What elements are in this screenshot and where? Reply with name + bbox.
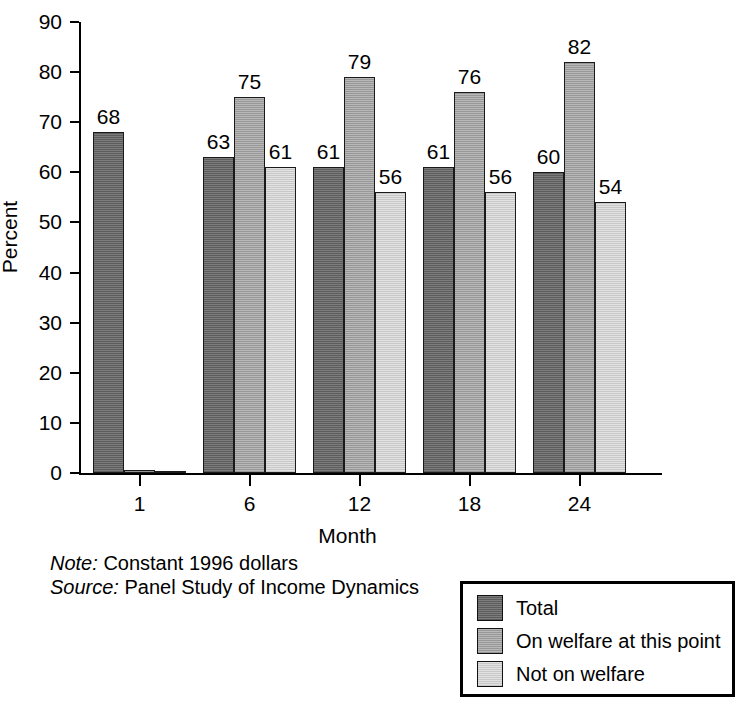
x-tick-label-6: 6 (220, 492, 280, 516)
legend-swatch-0 (477, 595, 503, 621)
x-axis-title-text: Month (318, 524, 376, 547)
bar-18-series1 (454, 92, 485, 473)
x-tick-6 (249, 475, 251, 486)
bar-value-24-series2: 54 (588, 176, 634, 197)
y-tick-90 (70, 21, 79, 23)
x-tick-12 (359, 475, 361, 486)
x-tick-1 (139, 475, 141, 486)
bar-value-6-series2: 61 (258, 141, 304, 162)
bar-12-series1 (344, 77, 375, 473)
y-tick-80 (70, 71, 79, 73)
bar-value-18-series2: 56 (478, 166, 524, 187)
bar-chart: Percent 0102030405060708090 686375616179… (0, 0, 745, 707)
legend-item-2: Not on welfare (477, 659, 645, 689)
y-tick-label-60: 60 (0, 161, 62, 182)
bar-12-series2 (375, 192, 406, 473)
y-tick-label-70: 70 (0, 111, 62, 132)
y-tick-30 (70, 322, 79, 324)
bar-6-series2 (265, 167, 296, 473)
bar-24-series2 (595, 202, 626, 473)
plot-area: 68637561617956617656608254 (79, 22, 659, 473)
bar-1-series2 (155, 471, 186, 473)
legend-item-1: On welfare at this point (477, 626, 721, 656)
note-text: Constant 1996 dollars (103, 552, 298, 574)
bar-value-18-series1: 76 (447, 66, 493, 87)
y-tick-0 (70, 472, 79, 474)
bar-value-12-series1: 79 (337, 51, 383, 72)
x-tick-18 (469, 475, 471, 486)
bar-6-series0 (203, 157, 234, 473)
note-line: Note: Constant 1996 dollars (50, 551, 419, 575)
bar-value-24-series1: 82 (557, 36, 603, 57)
bar-value-6-series1: 75 (227, 71, 273, 92)
bar-18-series0 (423, 167, 454, 473)
y-tick-label-0: 0 (0, 462, 62, 483)
y-tick-70 (70, 121, 79, 123)
y-tick-label-80: 80 (0, 61, 62, 82)
y-tick-20 (70, 372, 79, 374)
bar-12-series0 (313, 167, 344, 473)
legend-item-0: Total (477, 593, 558, 623)
x-axis-line (79, 473, 662, 475)
legend-label-1: On welfare at this point (516, 631, 721, 651)
y-tick-50 (70, 221, 79, 223)
source-line: Source: Panel Study of Income Dynamics (50, 575, 419, 599)
y-tick-label-30: 30 (0, 312, 62, 333)
bar-value-12-series2: 56 (368, 166, 414, 187)
y-tick-label-90: 90 (0, 11, 62, 32)
bar-24-series0 (533, 172, 564, 473)
y-tick-40 (70, 272, 79, 274)
y-tick-10 (70, 422, 79, 424)
x-tick-label-24: 24 (550, 492, 610, 516)
source-label: Source: (50, 576, 119, 598)
y-tick-label-40: 40 (0, 262, 62, 283)
legend-swatch-2 (477, 661, 503, 687)
legend-label-2: Not on welfare (516, 664, 645, 684)
legend: TotalOn welfare at this pointNot on welf… (460, 581, 735, 697)
x-tick-label-12: 12 (330, 492, 390, 516)
source-text: Panel Study of Income Dynamics (125, 576, 420, 598)
x-tick-24 (579, 475, 581, 486)
y-tick-60 (70, 171, 79, 173)
bar-value-1-series0: 68 (86, 106, 132, 127)
x-axis-title: Month (0, 524, 745, 548)
y-tick-label-10: 10 (0, 412, 62, 433)
bar-1-series1 (124, 470, 155, 473)
bar-18-series2 (485, 192, 516, 473)
bar-24-series1 (564, 62, 595, 473)
bar-1-series0 (93, 132, 124, 473)
y-tick-label-20: 20 (0, 362, 62, 383)
y-tick-label-50: 50 (0, 211, 62, 232)
x-tick-label-18: 18 (440, 492, 500, 516)
x-tick-label-1: 1 (110, 492, 170, 516)
legend-label-0: Total (516, 598, 558, 618)
note-label: Note: (50, 552, 98, 574)
legend-swatch-1 (477, 628, 503, 654)
chart-notes: Note: Constant 1996 dollars Source: Pane… (50, 551, 419, 599)
